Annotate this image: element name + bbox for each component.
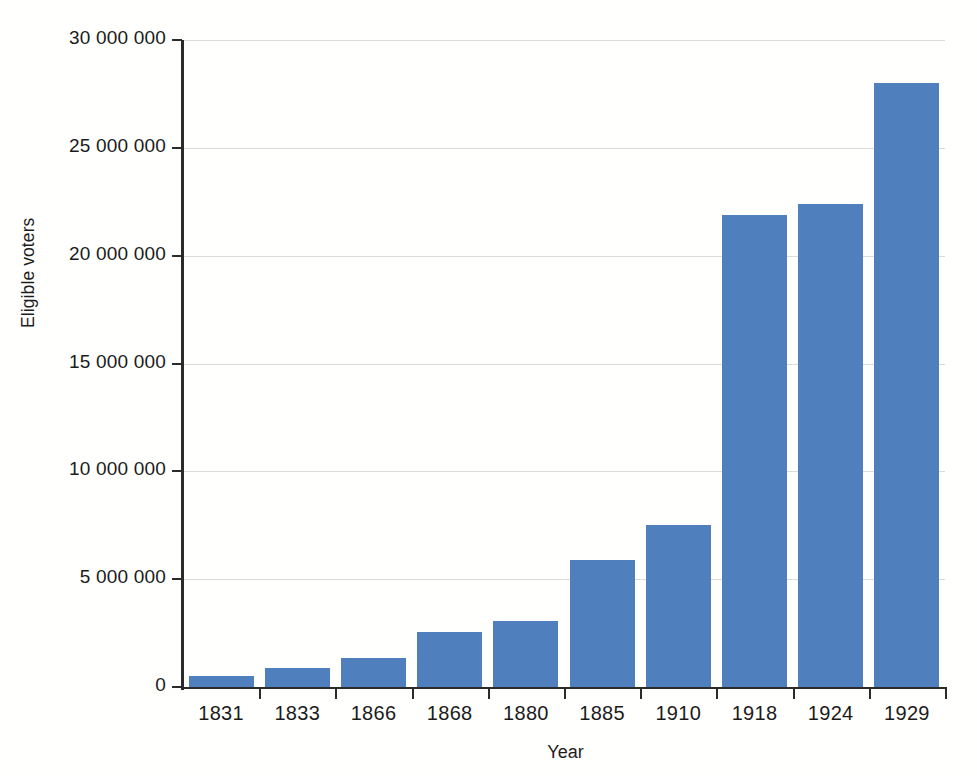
x-axis-tick [488,688,490,699]
x-axis-tick [412,688,414,699]
y-axis-tick [172,39,182,41]
y-axis-line [181,40,184,690]
x-axis-tick [793,688,795,699]
gridline [183,148,945,149]
bar-chart: Eligible voters 05 000 00010 000 00015 0… [0,0,977,776]
y-axis-tick [172,147,182,149]
x-axis-title-text: Year [547,742,583,762]
x-axis-tick-label-1831: 1831 [183,702,259,725]
bar-1910 [646,525,711,687]
x-axis-tick-label-1929: 1929 [869,702,945,725]
x-axis-tick [564,688,566,699]
bar-1880 [493,621,558,687]
x-axis-tick [640,688,642,699]
x-axis-tick [716,688,718,699]
x-axis-tick-end [945,688,947,699]
x-axis-tick-label-1885: 1885 [564,702,640,725]
bar-1924 [798,204,863,687]
x-axis-tick-label-1833: 1833 [259,702,335,725]
y-axis-tick [172,470,182,472]
y-axis-tick-label: 10 000 000 [6,458,166,480]
x-axis-tick-label-1910: 1910 [640,702,716,725]
x-axis-tick-label-1866: 1866 [335,702,411,725]
x-axis-tick-label-1924: 1924 [793,702,869,725]
y-axis-tick [172,255,182,257]
plot-area [183,40,945,687]
y-axis-tick [172,686,182,688]
y-axis-tick-label: 15 000 000 [6,351,166,373]
bar-1866 [341,658,406,687]
x-axis-tick-label-1880: 1880 [488,702,564,725]
y-axis-tick [172,363,182,365]
bar-1885 [570,560,635,687]
x-axis-tick-label-1868: 1868 [412,702,488,725]
bar-1868 [417,632,482,687]
y-axis-tick-label: 30 000 000 [6,27,166,49]
bar-1833 [265,668,330,687]
y-axis-title: Eligible voters [18,148,48,328]
x-axis-title: Year [0,742,977,763]
x-axis-tick [335,688,337,699]
y-axis-tick-label: 0 [6,674,166,696]
x-axis-tick [869,688,871,699]
x-axis-tick-label-1918: 1918 [716,702,792,725]
y-axis-tick-label: 20 000 000 [6,243,166,265]
x-axis-tick [259,688,261,699]
bar-1918 [722,215,787,687]
y-axis-tick-label: 25 000 000 [6,135,166,157]
y-axis-tick [172,578,182,580]
y-axis-tick-label: 5 000 000 [6,566,166,588]
bar-1929 [874,83,939,687]
gridline [183,40,945,41]
bar-1831 [189,676,254,687]
